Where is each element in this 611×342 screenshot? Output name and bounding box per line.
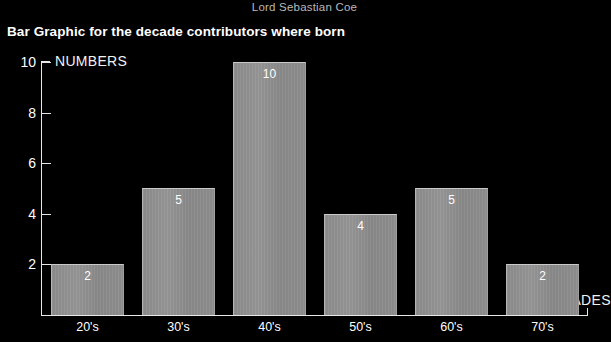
y-axis-label: NUMBERS xyxy=(55,53,127,69)
bar-value-label: 2 xyxy=(507,270,578,282)
y-axis-tick-label: 4 xyxy=(0,207,36,221)
x-axis-category-label: 60's xyxy=(412,320,492,334)
x-axis-category-label: 30's xyxy=(139,320,219,334)
y-axis-tick xyxy=(42,62,51,63)
y-axis-tick-label-text: 6 xyxy=(2,156,36,170)
y-axis-tick xyxy=(42,163,51,164)
bar[interactable]: 4 xyxy=(324,214,397,315)
x-axis-end-cap xyxy=(587,308,588,316)
bar[interactable]: 5 xyxy=(415,188,488,315)
y-axis-tick-label-text: 8 xyxy=(2,106,36,120)
bar-value-label: 4 xyxy=(325,220,396,232)
y-axis-tick-label: 8 xyxy=(0,106,36,120)
bar-value-label: 5 xyxy=(143,194,214,206)
y-axis-tick-label: 10 xyxy=(0,55,36,69)
x-axis-category-label: 50's xyxy=(321,320,401,334)
y-axis-tick xyxy=(42,113,51,114)
y-axis-tick-label-text: 2 xyxy=(2,257,36,271)
y-axis-line xyxy=(41,61,42,316)
bar-value-label: 10 xyxy=(234,68,305,80)
y-axis-tick-label-text: 10 xyxy=(2,55,36,69)
bar[interactable]: 2 xyxy=(506,264,579,315)
x-axis-category-label: 70's xyxy=(503,320,583,334)
bar-value-label: 2 xyxy=(52,270,123,282)
x-axis-line xyxy=(41,315,588,316)
x-axis-category-label: 40's xyxy=(230,320,310,334)
y-axis-tick-label: 6 xyxy=(0,156,36,170)
y-axis-tick-label: 2 xyxy=(0,257,36,271)
y-axis-tick xyxy=(42,214,51,215)
bar[interactable]: 10 xyxy=(233,62,306,315)
bar[interactable]: 5 xyxy=(142,188,215,315)
y-axis-tick-label-text: 4 xyxy=(2,207,36,221)
y-axis-tick xyxy=(42,264,51,265)
bar[interactable]: 2 xyxy=(51,264,124,315)
bar-value-label: 5 xyxy=(416,194,487,206)
x-axis-category-label: 20's xyxy=(48,320,128,334)
